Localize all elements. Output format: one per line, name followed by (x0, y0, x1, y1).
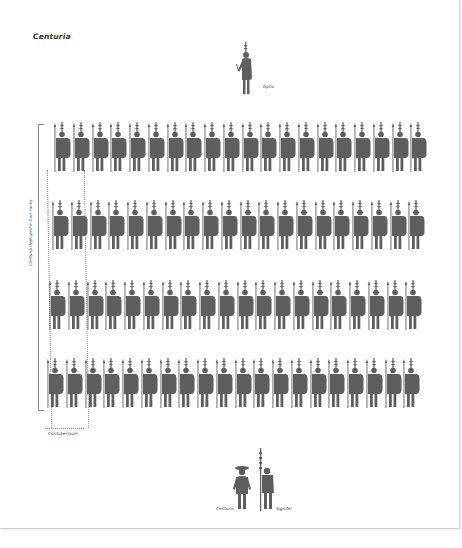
legionary-soldier-icon (86, 280, 104, 330)
legionary-soldier-icon (147, 122, 165, 172)
optio-soldier-icon (236, 42, 256, 97)
legionary-soldier-icon (314, 200, 332, 250)
legionary-soldier-icon (46, 358, 64, 408)
legionary-soldier-icon (367, 280, 385, 330)
legionary-soldier-icon (329, 280, 347, 330)
legionary-soldier-icon (257, 200, 275, 250)
legionary-soldier-icon (140, 358, 158, 408)
legionary-soldier-icon (404, 280, 422, 330)
legionary-soldier-icon (384, 358, 402, 408)
legionary-soldier-icon (184, 122, 202, 172)
legionary-soldier-icon (72, 122, 90, 172)
legionary-soldier-icon (316, 122, 334, 172)
ranks-label: Centuria deployed in four ranks (28, 200, 33, 266)
legionary-soldier-icon (348, 280, 366, 330)
legionary-soldier-icon (51, 200, 69, 250)
signifer-label: Signifer (276, 506, 292, 511)
legionary-soldier-icon (407, 200, 425, 250)
legionary-soldier-icon (215, 358, 233, 408)
legionary-soldier-icon (201, 200, 219, 250)
contubernium-label: Contubernium (48, 431, 78, 436)
legionary-soldier-icon (278, 122, 296, 172)
legionary-soldier-icon (222, 122, 240, 172)
legionary-soldier-icon (276, 200, 294, 250)
legionary-soldier-icon (239, 200, 257, 250)
legionary-soldier-icon (179, 280, 197, 330)
legionary-soldier-icon (123, 280, 141, 330)
legionary-soldier-icon (65, 358, 83, 408)
legionary-soldier-icon (203, 122, 221, 172)
legionary-soldier-icon (182, 200, 200, 250)
legionary-soldier-icon (145, 200, 163, 250)
legionary-soldier-icon (107, 200, 125, 250)
centurio-label: Centurio (216, 506, 234, 511)
legionary-soldier-icon (142, 280, 160, 330)
legionary-soldier-icon (67, 280, 85, 330)
centurion-icon (233, 463, 251, 511)
legionary-soldier-icon (346, 358, 364, 408)
legionary-soldier-icon (327, 358, 345, 408)
diagram-title: Centuria (33, 32, 71, 41)
legionary-soldier-icon (102, 358, 120, 408)
legionary-soldier-icon (409, 122, 427, 172)
contubernium-bottom-line (45, 428, 84, 429)
legionary-soldier-icon (332, 200, 350, 250)
diagram-page: Centuria Optio Centuria deployed in four… (0, 0, 460, 529)
legionary-soldier-icon (121, 358, 139, 408)
legionary-soldier-icon (196, 358, 214, 408)
legionary-soldier-icon (166, 122, 184, 172)
legionary-soldier-icon (370, 200, 388, 250)
legionary-soldier-icon (236, 280, 254, 330)
ranks-bracket (38, 124, 44, 411)
legionary-soldier-icon (372, 122, 390, 172)
legionary-soldier-icon (177, 358, 195, 408)
legionary-soldier-icon (292, 280, 310, 330)
legionary-soldier-icon (126, 200, 144, 250)
legionary-soldier-icon (389, 200, 407, 250)
legionary-soldier-icon (217, 280, 235, 330)
legionary-soldier-icon (89, 200, 107, 250)
legionary-soldier-icon (351, 200, 369, 250)
legionary-soldier-icon (273, 280, 291, 330)
legionary-soldier-icon (161, 280, 179, 330)
legionary-soldier-icon (128, 122, 146, 172)
legionary-soldier-icon (104, 280, 122, 330)
legionary-soldier-icon (252, 358, 270, 408)
legionary-soldier-icon (334, 122, 352, 172)
legionary-soldier-icon (70, 200, 88, 250)
legionary-soldier-icon (391, 122, 409, 172)
legionary-soldier-icon (254, 280, 272, 330)
legionary-soldier-icon (365, 358, 383, 408)
legionary-soldier-icon (220, 200, 238, 250)
legionary-soldier-icon (198, 280, 216, 330)
legionary-soldier-icon (53, 122, 71, 172)
legionary-soldier-icon (84, 358, 102, 408)
legionary-soldier-icon (164, 200, 182, 250)
legionary-soldier-icon (353, 122, 371, 172)
legionary-soldier-icon (241, 122, 259, 172)
legionary-soldier-icon (297, 122, 315, 172)
legionary-soldier-icon (309, 358, 327, 408)
signifer-standard-bearer-icon (256, 448, 276, 511)
legionary-soldier-icon (271, 358, 289, 408)
legionary-soldier-icon (234, 358, 252, 408)
legionary-soldier-icon (259, 122, 277, 172)
legionary-soldier-icon (91, 122, 109, 172)
optio-label: Optio (263, 84, 274, 89)
legionary-soldier-icon (402, 358, 420, 408)
legionary-soldier-icon (311, 280, 329, 330)
legionary-soldier-icon (109, 122, 127, 172)
legionary-soldier-icon (295, 200, 313, 250)
legionary-soldier-icon (159, 358, 177, 408)
legionary-soldier-icon (386, 280, 404, 330)
legionary-soldier-icon (290, 358, 308, 408)
legionary-soldier-icon (48, 280, 66, 330)
